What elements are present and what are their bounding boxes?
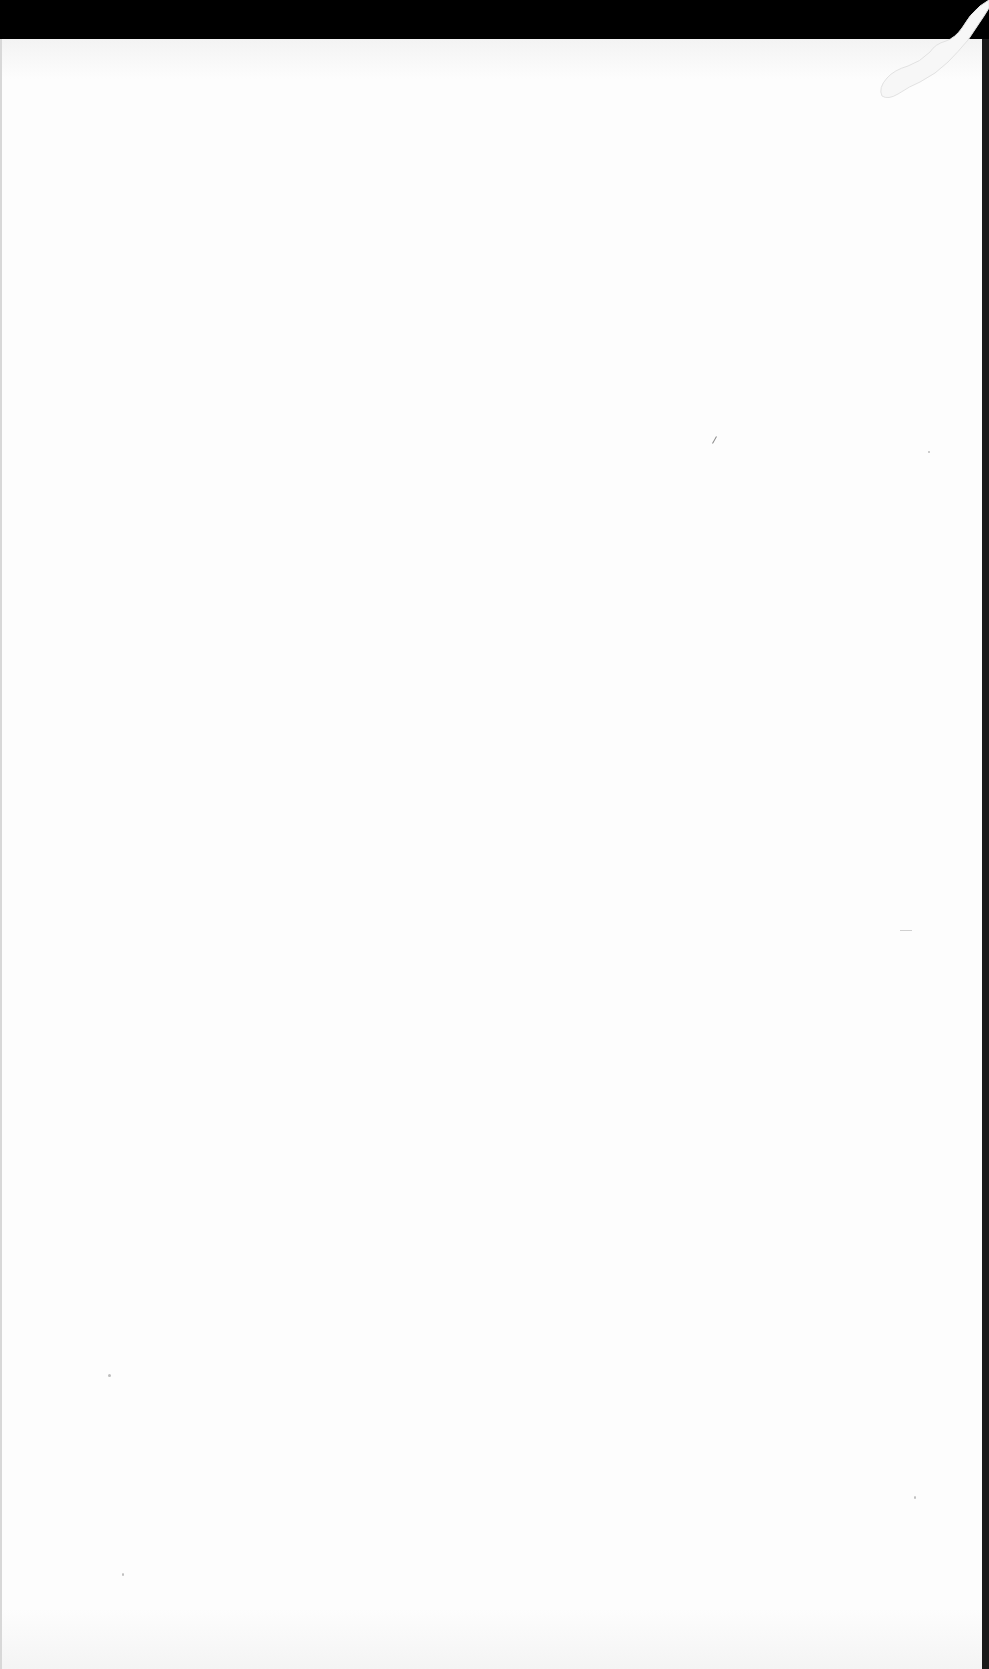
dust-speck [914, 1496, 916, 1499]
stray-mark [712, 436, 717, 443]
dust-speck [928, 451, 930, 453]
stray-mark [900, 930, 912, 931]
dust-speck [108, 1374, 111, 1377]
dust-speck [122, 1573, 124, 1576]
blank-page [0, 39, 982, 1669]
page-left-edge [0, 39, 2, 1669]
page-curl-artifact [770, 0, 989, 120]
page-right-edge-shadow [982, 39, 989, 1669]
